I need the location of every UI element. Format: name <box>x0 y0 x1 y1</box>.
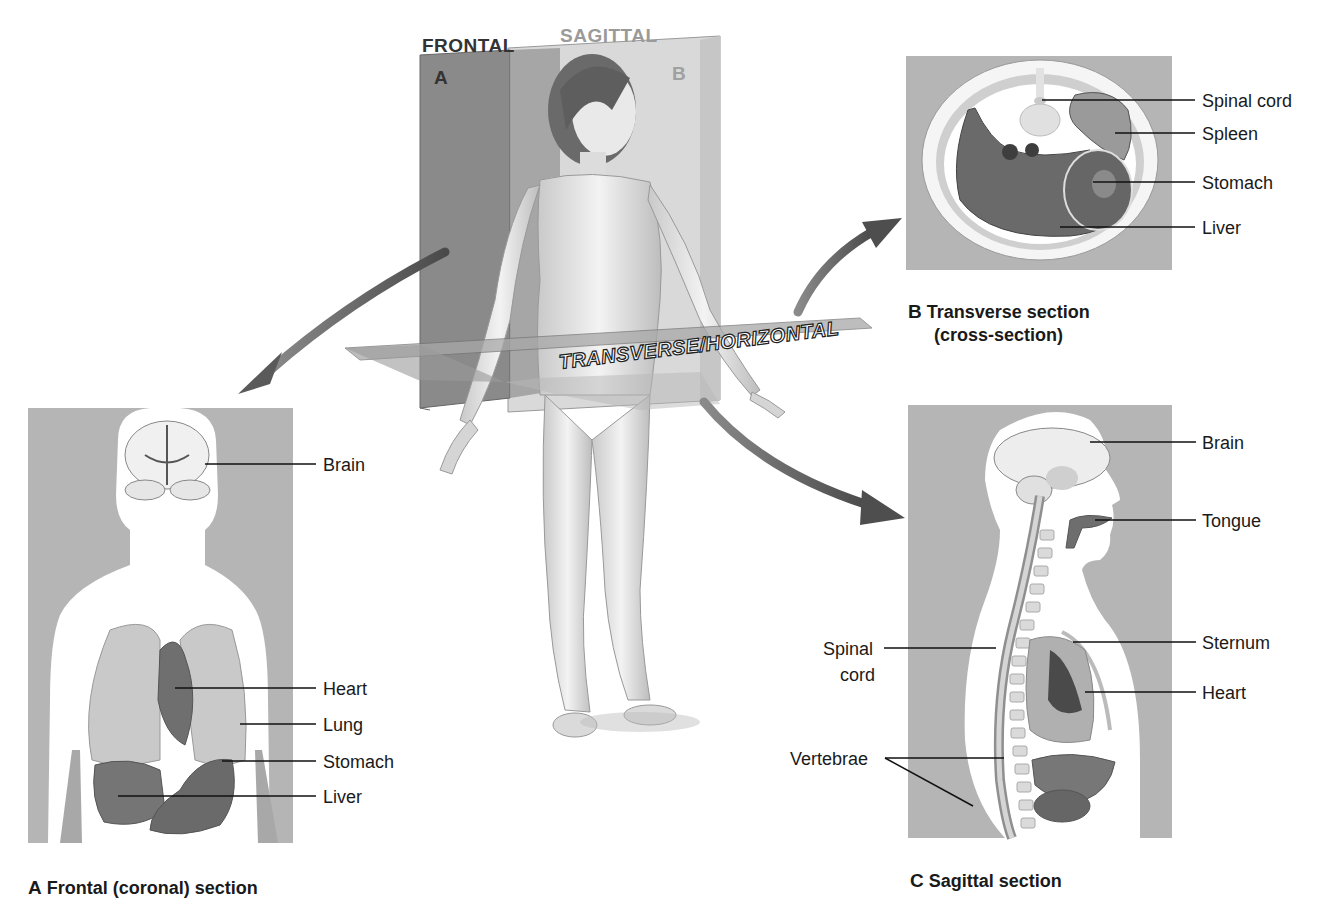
panel-c-caption-text: Sagittal section <box>929 871 1062 891</box>
panel-c-caption-letter: C <box>910 870 924 891</box>
panel-c-label-heart: Heart <box>1202 684 1246 702</box>
panel-c-label-vertebrae: Vertebrae <box>790 750 868 768</box>
panel-c-label-brain: Brain <box>1202 434 1244 452</box>
panel-c-label-spinal-cord-line2: cord <box>840 666 875 684</box>
panel-c-label-tongue: Tongue <box>1202 512 1261 530</box>
panel-c-stomach <box>1034 790 1090 822</box>
panel-c-label-spinal-cord-line1: Spinal <box>823 640 873 658</box>
sagittal-section-panel <box>0 0 1324 911</box>
panel-c-caption: C Sagittal section <box>910 869 1062 893</box>
panel-c-label-sternum: Sternum <box>1202 634 1270 652</box>
